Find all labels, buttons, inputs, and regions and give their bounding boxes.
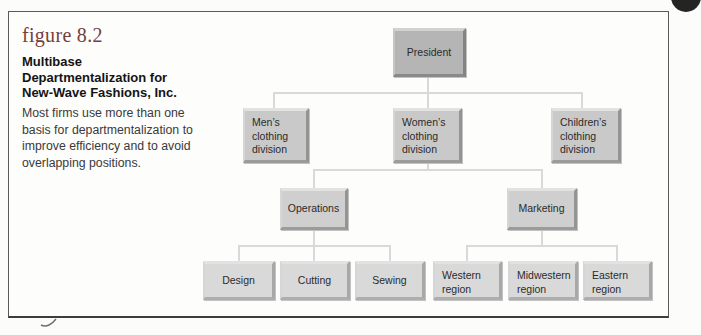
connector-line xyxy=(616,245,618,261)
connector-line xyxy=(273,92,275,108)
org-node-midwestern-region: Midwestern region xyxy=(508,261,578,300)
figure-info-panel: figure 8.2 Multibase Departmentalization… xyxy=(22,24,202,172)
org-node-western-region: Western region xyxy=(433,261,502,300)
pen-mark-icon xyxy=(40,318,58,328)
connector-line xyxy=(313,169,315,188)
org-node-sewing: Sewing xyxy=(355,261,425,300)
org-node-operations: Operations xyxy=(280,188,348,230)
connector-line xyxy=(389,245,391,261)
page-corner-dot xyxy=(671,0,701,12)
figure-caption-line: Most firms use more than one xyxy=(22,105,202,122)
figure-title: Multibase Departmentalization for New-Wa… xyxy=(22,54,202,101)
figure-label: figure 8.2 xyxy=(22,24,202,47)
figure-caption-line: basis for departmentalization to xyxy=(22,122,202,139)
figure-title-line: Departmentalization for xyxy=(22,70,202,86)
connector-line xyxy=(313,245,315,261)
org-node-mens-clothing-division: Men’s clothing division xyxy=(243,108,309,163)
org-node-cutting: Cutting xyxy=(280,261,350,300)
org-node-childrens-clothing-division: Children’s clothing division xyxy=(551,108,621,163)
org-node-design: Design xyxy=(203,261,275,300)
org-node-president: President xyxy=(393,28,466,77)
connector-line xyxy=(427,92,429,108)
figure-caption: Most firms use more than one basis for d… xyxy=(22,105,202,172)
connector-line xyxy=(581,92,583,108)
figure-title-line: New-Wave Fashions, Inc. xyxy=(22,85,202,101)
figure-caption-line: overlapping positions. xyxy=(22,155,202,172)
connector-line xyxy=(466,245,468,261)
connector-line xyxy=(466,245,618,247)
org-node-womens-clothing-division: Women’s clothing division xyxy=(393,108,462,163)
org-node-marketing: Marketing xyxy=(507,188,577,230)
figure-caption-line: improve efficiency and to avoid xyxy=(22,138,202,155)
connector-line xyxy=(313,169,543,171)
connector-line xyxy=(541,169,543,188)
figure-title-line: Multibase xyxy=(22,54,202,70)
org-node-eastern-region: Eastern region xyxy=(583,261,652,300)
connector-line xyxy=(238,245,240,261)
